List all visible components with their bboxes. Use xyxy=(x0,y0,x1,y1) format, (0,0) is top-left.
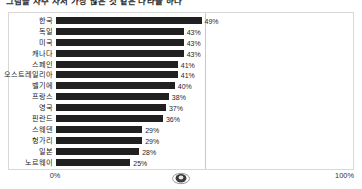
bar-row: 헝가리29% xyxy=(9,135,353,146)
bar-value-label: 49% xyxy=(205,18,219,25)
category-label-slot: 미국 xyxy=(9,37,56,48)
category-label: 독일 xyxy=(39,28,53,35)
category-label: 벨기에 xyxy=(32,83,53,90)
category-label-slot: 일본 xyxy=(9,146,56,157)
bar xyxy=(56,148,139,155)
category-label-slot: 헝가리 xyxy=(9,135,56,146)
category-label: 한국 xyxy=(39,17,53,24)
bar-value-label: 29% xyxy=(145,126,159,133)
bar-track: 36% xyxy=(56,114,351,125)
category-label: 미국 xyxy=(39,39,53,46)
bar xyxy=(56,104,166,111)
bar-rows: 한국49%독일43%미국43%캐나다43%스페인41%오스트레일리아41%벨기에… xyxy=(9,13,353,169)
bar-track: 28% xyxy=(56,146,351,157)
axis-tick-max: 100% xyxy=(335,171,354,180)
bar xyxy=(56,61,178,68)
bar-row: 스웨덴29% xyxy=(9,124,353,135)
bar xyxy=(56,28,184,35)
bar xyxy=(56,159,130,166)
bar-track: 43% xyxy=(56,48,351,59)
category-label: 일본 xyxy=(39,148,53,155)
category-label-slot: 캐나다 xyxy=(9,48,56,59)
axis-tick-min: 0% xyxy=(50,171,61,180)
bar-row: 핀란드36% xyxy=(9,114,353,125)
bar-value-label: 25% xyxy=(133,159,147,166)
bar xyxy=(56,50,184,57)
bar-track: 49% xyxy=(56,16,351,27)
category-label-slot: 독일 xyxy=(9,26,56,37)
chart-plot-area: 한국49%독일43%미국43%캐나다43%스페인41%오스트레일리아41%벨기에… xyxy=(8,12,354,170)
bar xyxy=(56,126,142,133)
bar-value-label: 36% xyxy=(166,116,180,123)
bar-track: 40% xyxy=(56,81,351,92)
bar-track: 41% xyxy=(56,59,351,70)
category-label-slot: 영국 xyxy=(9,103,56,114)
bar-track: 37% xyxy=(56,103,351,114)
bar-track: 38% xyxy=(56,92,351,103)
category-label-slot: 핀란드 xyxy=(9,114,56,125)
bar-track: 29% xyxy=(56,135,351,146)
category-label-slot: 스페인 xyxy=(9,59,56,70)
category-label-slot: 프랑스 xyxy=(9,92,56,103)
bar-track: 25% xyxy=(56,157,351,168)
bar-value-label: 37% xyxy=(169,105,183,112)
category-label: 영국 xyxy=(39,105,53,112)
bar-track: 41% xyxy=(56,70,351,81)
bar-row: 한국49% xyxy=(9,16,353,27)
category-label: 핀란드 xyxy=(32,115,53,122)
bar-row: 독일43% xyxy=(9,26,353,37)
bar xyxy=(56,71,178,78)
category-label: 스페인 xyxy=(32,61,53,68)
bar-value-label: 43% xyxy=(187,28,201,35)
bar-value-label: 43% xyxy=(187,50,201,57)
bar-row: 프랑스38% xyxy=(9,92,353,103)
bar xyxy=(56,17,202,24)
category-label: 헝가리 xyxy=(32,137,53,144)
category-label: 캐나다 xyxy=(32,50,53,57)
bar-value-label: 40% xyxy=(178,83,192,90)
bar xyxy=(56,39,184,46)
oval-watermark-icon xyxy=(170,172,192,185)
category-label: 노르웨이 xyxy=(25,159,53,166)
bar-value-label: 28% xyxy=(142,148,156,155)
bar-row: 캐나다43% xyxy=(9,48,353,59)
bar-value-label: 43% xyxy=(187,39,201,46)
bar xyxy=(56,137,142,144)
bar-row: 스페인41% xyxy=(9,59,353,70)
bar-row: 벨기에40% xyxy=(9,81,353,92)
bar-row: 미국43% xyxy=(9,37,353,48)
category-label: 오스트레일리아 xyxy=(4,72,53,79)
category-label-slot: 오스트레일리아 xyxy=(9,70,56,81)
bar-value-label: 41% xyxy=(181,72,195,79)
bar xyxy=(56,115,163,122)
category-label-slot: 스웨덴 xyxy=(9,124,56,135)
bar-track: 29% xyxy=(56,124,351,135)
bar-track: 43% xyxy=(56,26,351,37)
bar-track: 43% xyxy=(56,37,351,48)
bar-value-label: 41% xyxy=(181,61,195,68)
bar xyxy=(56,82,175,89)
bar-row: 오스트레일리아41% xyxy=(9,70,353,81)
bar-value-label: 29% xyxy=(145,137,159,144)
category-label-slot: 벨기에 xyxy=(9,81,56,92)
chart-title-strip: 그림을 자주 사서 가장 많은 것 같은 나라들 하나 xyxy=(0,0,362,9)
chart-title: 그림을 자주 사서 가장 많은 것 같은 나라들 하나 xyxy=(6,0,182,6)
category-label-slot: 한국 xyxy=(9,16,56,27)
bar xyxy=(56,93,169,100)
bar-row: 일본28% xyxy=(9,146,353,157)
bar-row: 영국37% xyxy=(9,103,353,114)
bar-value-label: 38% xyxy=(172,94,186,101)
bar-row: 노르웨이25% xyxy=(9,157,353,168)
category-label-slot: 노르웨이 xyxy=(9,157,56,168)
category-label: 프랑스 xyxy=(32,94,53,101)
category-label: 스웨덴 xyxy=(32,126,53,133)
